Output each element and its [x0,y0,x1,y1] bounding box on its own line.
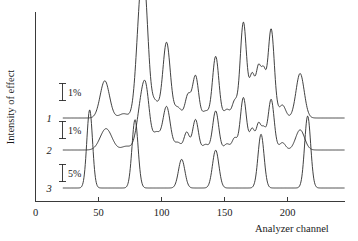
x-tick-label-150: 150 [217,207,233,218]
curve-labels-group: 1 2 3 [45,113,52,194]
x-tick-label-0: 0 [33,207,38,218]
y-axis-title: Intensity of effect [5,70,16,145]
scale-bar-3: 5% [59,164,81,182]
scale-bar-2-label: 1% [68,125,81,136]
axes-group: 0 50 100 150 200 Analyzer channel Intens… [5,12,345,234]
spectra-traces [63,0,344,188]
scale-bars-group: 1% 1% 5% [59,83,81,182]
curve-label-1: 1 [46,113,51,124]
spectrum-plot: 0 50 100 150 200 Analyzer channel Intens… [0,0,358,241]
scale-bar-3-label: 5% [68,168,81,179]
spectra-figure: 0 50 100 150 200 Analyzer channel Intens… [0,0,358,241]
x-axis-tick-labels: 0 50 100 150 200 [33,207,296,218]
x-tick-label-100: 100 [154,207,170,218]
scale-bar-2: 1% [59,121,81,139]
x-axis-ticks [36,197,288,202]
x-tick-label-200: 200 [280,207,296,218]
scale-bar-1: 1% [59,83,81,101]
x-axis-title: Analyzer channel [255,223,329,234]
curve-label-2: 2 [46,145,52,156]
spectrum-curve-1 [63,0,344,118]
spectrum-curve-3 [63,110,344,188]
x-tick-label-50: 50 [93,207,104,218]
spectrum-curve-2 [63,80,344,150]
scale-bar-1-label: 1% [68,87,81,98]
curve-label-3: 3 [45,183,51,194]
